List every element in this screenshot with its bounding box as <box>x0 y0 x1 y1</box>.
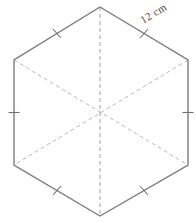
hexagon-face <box>14 7 188 216</box>
hexagon-figure: 12 cm <box>0 0 196 223</box>
side-length-label: 12 cm <box>138 1 169 26</box>
hexagon-diagram: 12 cm <box>0 0 196 223</box>
